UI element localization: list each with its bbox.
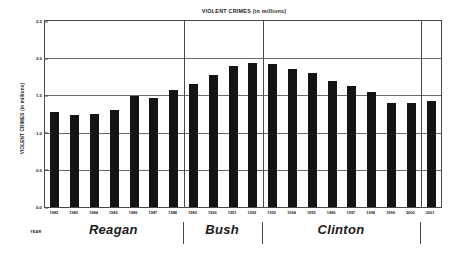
bar	[288, 69, 297, 207]
era-divider	[184, 21, 185, 207]
x-axis-tick-label: 1985	[103, 210, 123, 215]
era-divider-bottom	[183, 222, 184, 244]
bar	[130, 96, 139, 207]
bar	[90, 114, 99, 207]
y-axis-label: VIOLENT CRIMES (in millions)	[20, 64, 25, 174]
president-era-labels: ReaganBushClinton	[44, 222, 442, 246]
y-axis-tick-label: 1.5	[36, 93, 45, 98]
bar	[50, 112, 59, 207]
bar	[169, 90, 178, 207]
y-axis-tick-label: 1.0	[36, 130, 45, 135]
x-axis-tick-label: 1996	[321, 210, 341, 215]
bar	[229, 66, 238, 207]
x-axis-tick-label: 1987	[143, 210, 163, 215]
y-axis-tick-label: 2.0	[36, 56, 45, 61]
x-axis-tick-label: 2001	[420, 210, 440, 215]
bar	[308, 73, 317, 207]
bar	[367, 92, 376, 207]
y-axis-tick-label: 2.5	[36, 19, 45, 24]
era-divider	[263, 21, 264, 207]
x-axis-tick-label: 1997	[341, 210, 361, 215]
x-axis-tick-label: 1989	[183, 210, 203, 215]
era-divider-bottom	[262, 222, 263, 244]
x-axis-tick-label: 1999	[381, 210, 401, 215]
x-axis-tick-label: 1998	[361, 210, 381, 215]
y-axis-tick-label: 0.0	[36, 205, 45, 210]
plot-area: 0.00.51.01.52.02.5	[44, 20, 442, 208]
bar	[248, 63, 257, 207]
bar	[328, 81, 337, 207]
x-axis-tick-label: 1988	[163, 210, 183, 215]
bar	[427, 101, 436, 207]
bar-series	[45, 21, 441, 207]
year-axis-caption: YEAR	[30, 229, 42, 234]
x-axis-tick-label: 1990	[202, 210, 222, 215]
x-axis-tick-label: 1983	[64, 210, 84, 215]
x-axis-tick-label: 1993	[262, 210, 282, 215]
bar	[268, 64, 277, 207]
bar	[387, 103, 396, 207]
bar	[347, 86, 356, 207]
era-divider-bottom	[420, 222, 421, 244]
bar	[209, 75, 218, 207]
x-axis-tick-label: 1982	[44, 210, 64, 215]
x-axis-tick-label: 1994	[282, 210, 302, 215]
bar	[149, 98, 158, 207]
x-axis-tick-label: 1986	[123, 210, 143, 215]
bar	[407, 103, 416, 207]
chart-title: VIOLENT CRIMES (in millions)	[44, 8, 444, 14]
era-divider	[421, 21, 422, 207]
era-label-clinton: Clinton	[262, 222, 420, 237]
bar	[70, 115, 79, 207]
bar	[110, 110, 119, 207]
x-axis-tick-label: 1991	[222, 210, 242, 215]
violent-crimes-bar-chart: VIOLENT CRIMES (in millions) VIOLENT CRI…	[0, 0, 450, 263]
x-axis-tick-label: 1992	[242, 210, 262, 215]
era-label-reagan: Reagan	[44, 222, 183, 237]
x-axis-tick-labels: 1982198319841985198619871988198919901991…	[44, 210, 442, 220]
bar	[189, 84, 198, 207]
x-axis-tick-label: 1995	[301, 210, 321, 215]
x-axis-tick-label: 1984	[84, 210, 104, 215]
era-label-bush: Bush	[183, 222, 262, 237]
x-axis-tick-label: 2000	[400, 210, 420, 215]
y-axis-tick-label: 0.5	[36, 167, 45, 172]
